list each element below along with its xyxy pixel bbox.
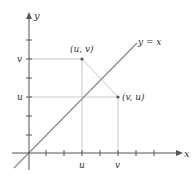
y-axis-arrow-icon [26,12,32,19]
x-axis-label: x [184,148,190,159]
point-v-u [116,95,119,98]
y-tick-label-u: u [17,92,23,102]
point-label-u-v: (u, v) [70,44,94,54]
point-label-v-u: (v, u) [122,92,145,102]
line-y-equals-x [14,43,137,168]
x-tick-label-u: u [79,160,85,170]
connecting-segment [82,59,118,97]
x-tick-label-v: v [115,160,120,170]
y-axis-label: y [33,10,40,21]
line-label: y = x [137,37,161,47]
y-tick-label-v: v [17,54,22,64]
point-u-v [80,57,83,60]
reflection-diagram: y x y = x (u, v) (v, u) v u u v [0,0,193,175]
x-axis-arrow-icon [176,150,183,156]
